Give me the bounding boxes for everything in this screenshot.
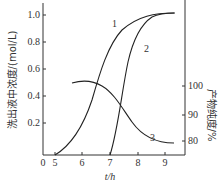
curve-2-label: 2: [144, 43, 149, 54]
y2-tick-90: 90: [188, 109, 198, 120]
y2-tick-100: 100: [188, 80, 203, 91]
x-tick-5: 5: [53, 157, 58, 168]
x-tick-9: 9: [163, 157, 168, 168]
curve-1: [55, 13, 174, 155]
y-tick-0.2: 0.2: [28, 117, 41, 128]
y-tick-1.0: 1.0: [28, 9, 41, 20]
chart: 0.2 0.4 0.6 0.8 1.0 0 5 6 7 8 9 100 90 8…: [0, 0, 219, 182]
y-right-axis-label: 产物纯度/%: [206, 89, 218, 142]
y-tick-0.4: 0.4: [28, 90, 41, 101]
curve-3-label: 3: [150, 132, 155, 143]
x-tick-0: 0: [41, 157, 46, 168]
y-tick-0.6: 0.6: [28, 63, 41, 74]
x-tick-8: 8: [136, 157, 141, 168]
x-axis-label: t/h: [105, 171, 116, 182]
y-tick-0.8: 0.8: [28, 36, 41, 47]
x-tick-7: 7: [108, 157, 113, 168]
curve-1-label: 1: [112, 18, 117, 29]
x-ticks: 0 5 6 7 8 9: [41, 152, 168, 168]
y2-tick-80: 80: [188, 135, 198, 146]
y-left-axis-label: 洗出液中浓度/(mol/L): [6, 31, 18, 130]
x-tick-6: 6: [80, 157, 85, 168]
